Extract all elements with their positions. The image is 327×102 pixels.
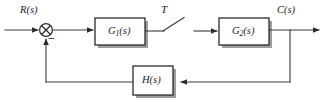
sampler-blade xyxy=(163,18,184,32)
block-g2-label-main: G xyxy=(232,25,240,36)
feedback-sign-label: − xyxy=(48,33,54,44)
output-signal-label: C(s) xyxy=(277,5,295,16)
block-diagram-canvas: R(s) C(s) T − G1(s) G2(s) H(s) xyxy=(0,0,327,102)
block-h-label: H(s) xyxy=(142,75,161,86)
block-g2-label-arg: (s) xyxy=(243,25,254,36)
sampling-period-label: T xyxy=(161,4,167,15)
input-signal-label: R(s) xyxy=(20,5,38,16)
block-g2-label-sub: 2 xyxy=(240,29,244,38)
block-g1-label-main: G xyxy=(108,25,116,36)
block-g1-label-sub: 1 xyxy=(116,29,120,38)
block-h-label-main: H xyxy=(142,74,150,85)
block-g1-label-arg: (s) xyxy=(119,25,130,36)
block-g2-label: G2(s) xyxy=(232,26,254,37)
block-h-label-arg: (s) xyxy=(150,74,161,85)
block-g1-label: G1(s) xyxy=(108,26,130,37)
